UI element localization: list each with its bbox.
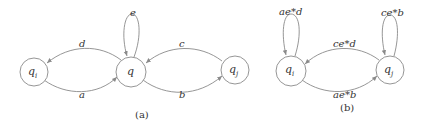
edge-qj-self-loop [382,15,397,56]
node-q-label: q [127,65,134,78]
edge-label-c: c [179,38,185,49]
edge-qj-to-q [146,48,222,63]
edge-label-ce-star-b: ce*b [381,7,404,18]
diagram-a: qi q qj d a e c b (a) [20,7,249,120]
state-diagram: qi q qj d a e c b (a) qi qj ae*d ce*b ce… [0,0,423,124]
edge-q-to-qi [47,48,121,63]
edge-label-ae-star-d: ae*d [279,6,302,17]
edge-q-self-loop [124,14,139,57]
edge-label-ce-star-d: ce*d [333,38,356,49]
edge-label-a: a [79,89,85,100]
caption-a: (a) [135,109,149,120]
edge-label-ae-star-b: ae*b [333,89,356,100]
edge-qi-self-loop [283,14,299,56]
edge-label-d: d [79,38,85,49]
edge-label-e: e [130,7,136,18]
edge-qj-to-qi [305,48,379,64]
edge-label-b: b [179,89,185,100]
caption-b: (b) [340,102,354,113]
diagram-b: qi qj ae*d ce*b ce*d ae*b (b) [276,6,404,113]
